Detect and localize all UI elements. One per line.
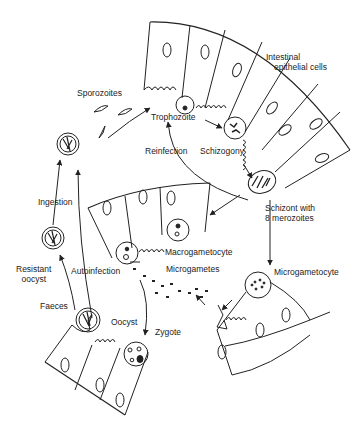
label-schizogony: Schizogony xyxy=(200,146,244,156)
label-oocyst: Oocyst xyxy=(111,317,137,327)
label-zygote: Zygote xyxy=(155,327,181,337)
label-ingestion: Ingestion xyxy=(38,197,73,207)
label-autoinfection: Autoinfection xyxy=(71,266,120,276)
label-microgametes: Microgametes xyxy=(166,264,219,274)
label-intestinal: Intestinal xyxy=(266,52,327,62)
label-schizont-line2: 8 merozoites xyxy=(265,213,315,223)
sporozoites xyxy=(94,106,132,138)
label-intestinal-cells: Intestinal epithelial cells xyxy=(266,52,327,72)
label-epithelial-cells: epithelial cells xyxy=(266,62,327,72)
lower-right-epithelium xyxy=(217,272,330,375)
label-schizont-line1: Schizont with xyxy=(265,203,315,213)
label-schizont: Schizont with 8 merozoites xyxy=(265,203,315,223)
label-reinfection: Reinfection xyxy=(145,146,188,156)
upper-epithelium xyxy=(144,22,350,197)
label-oocyst-line: oocyst xyxy=(16,274,51,284)
life-cycle-diagram: Intestinal epithelial cells Sporozoites … xyxy=(0,0,358,438)
label-resistant: Resistant xyxy=(16,264,51,274)
label-macrogametocyte: Macrogametocyte xyxy=(165,247,233,257)
label-sporozoites: Sporozoites xyxy=(77,88,122,98)
label-microgametocyte: Microgametocyte xyxy=(274,267,339,277)
label-faeces: Faeces xyxy=(40,301,68,311)
label-resistant-oocyst: Resistant oocyst xyxy=(16,264,51,284)
label-trophozoite: Trophozoite xyxy=(151,112,196,122)
free-oocysts xyxy=(42,133,79,249)
